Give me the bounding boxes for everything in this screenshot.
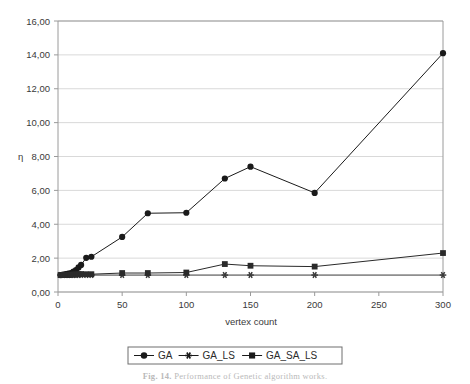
y-tick-label: 4,00 xyxy=(32,219,51,230)
figure-container: 0,002,004,006,008,0010,0012,0014,0016,00… xyxy=(0,0,470,384)
x-axis-ticks: 050100150200250300 xyxy=(55,292,451,310)
legend-label: GA xyxy=(158,350,173,361)
marker-circle xyxy=(88,254,94,260)
y-tick-label: 0,00 xyxy=(32,287,51,298)
y-tick-label: 10,00 xyxy=(26,117,50,128)
y-tick-label: 6,00 xyxy=(32,185,51,196)
grid-lines xyxy=(58,21,443,292)
marker-circle xyxy=(183,210,189,216)
series-GA xyxy=(57,50,446,278)
x-tick-label: 100 xyxy=(178,299,194,310)
marker-square xyxy=(183,270,189,276)
y-axis-ticks: 0,002,004,006,008,0010,0012,0014,0016,00 xyxy=(26,16,58,298)
marker-circle xyxy=(247,164,253,170)
marker-square xyxy=(249,352,255,358)
marker-circle xyxy=(141,352,148,359)
x-tick-label: 200 xyxy=(307,299,323,310)
marker-square xyxy=(248,263,254,269)
marker-square xyxy=(83,271,89,277)
marker-square xyxy=(88,271,94,277)
x-tick-label: 300 xyxy=(435,299,451,310)
y-tick-label: 12,00 xyxy=(26,83,50,94)
y-tick-label: 2,00 xyxy=(32,253,51,264)
marker-circle xyxy=(145,210,151,216)
marker-square xyxy=(78,271,84,277)
y-tick-label: 8,00 xyxy=(32,151,51,162)
marker-circle xyxy=(312,190,318,196)
chart-legend: GAGA_LSGA_SA_LS xyxy=(128,347,342,364)
x-tick-label: 250 xyxy=(371,299,387,310)
y-axis-title: η xyxy=(18,151,23,162)
marker-circle xyxy=(119,234,125,240)
marker-circle xyxy=(78,262,84,268)
line-chart: 0,002,004,006,008,0010,0012,0014,0016,00… xyxy=(0,0,470,384)
x-tick-label: 150 xyxy=(243,299,259,310)
x-tick-label: 0 xyxy=(55,299,60,310)
marker-square xyxy=(440,250,446,256)
marker-square xyxy=(222,261,228,267)
marker-circle xyxy=(83,255,89,261)
caption-number: Fig. 14. xyxy=(143,371,172,381)
figure-caption: Fig. 14. Performance of Genetic algorith… xyxy=(0,371,470,381)
legend-label: GA_SA_LS xyxy=(266,350,317,361)
y-tick-label: 16,00 xyxy=(26,16,50,27)
legend-label: GA_LS xyxy=(203,350,236,361)
y-tick-label: 14,00 xyxy=(26,49,50,60)
caption-text: Performance of Genetic algorithm works. xyxy=(174,371,327,381)
series-layer xyxy=(57,50,446,278)
x-axis-title: vertex count xyxy=(225,316,277,327)
marker-square xyxy=(119,270,125,276)
marker-circle xyxy=(222,175,228,181)
marker-square xyxy=(312,264,318,270)
marker-square xyxy=(145,270,151,276)
marker-circle xyxy=(440,50,446,56)
x-tick-label: 50 xyxy=(117,299,128,310)
